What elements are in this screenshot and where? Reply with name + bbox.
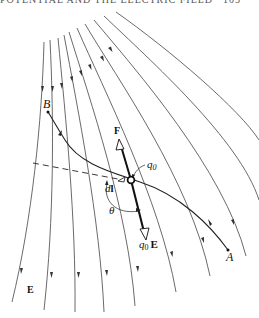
label-angle: θ: [109, 204, 115, 216]
label-b: B: [43, 97, 51, 111]
force-arrowhead: [116, 139, 124, 150]
field-line-2: [44, 40, 52, 310]
field-force-vector: [131, 180, 144, 232]
field-line-9: [104, 16, 259, 200]
field-line-1: [12, 42, 44, 302]
field-line-7: [85, 24, 210, 276]
label-force: F: [114, 125, 120, 136]
label-field-force: q0E: [139, 238, 158, 252]
field-line-8: [94, 20, 246, 256]
path-a-to-b: [48, 112, 228, 250]
force-vector: [121, 146, 131, 180]
field-line-6: [77, 28, 176, 292]
label-field: E: [27, 284, 34, 295]
electric-field-lines: [12, 12, 259, 312]
label-a: A: [225, 250, 234, 264]
field-diagram: B A F q0 q0E dl θ E: [0, 0, 259, 318]
path-arrowhead-near-a: [208, 219, 212, 226]
test-charge: [128, 177, 135, 184]
field-line-10: [116, 12, 259, 140]
displacement-arrowhead: [118, 177, 125, 182]
label-displacement: dl: [105, 182, 114, 194]
label-charge: q0: [147, 158, 157, 172]
field-line-5: [69, 32, 135, 306]
